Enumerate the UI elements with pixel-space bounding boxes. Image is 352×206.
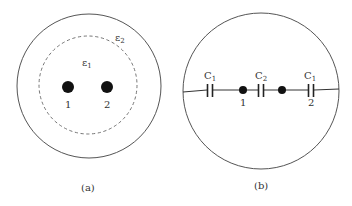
panel-b <box>183 13 339 169</box>
wire <box>314 89 339 90</box>
panel-a <box>17 14 161 158</box>
capacitor-c1-right <box>309 84 314 97</box>
capacitor-symbol: C <box>204 70 212 81</box>
caption-b: (b) <box>254 181 268 191</box>
outer-boundary-circle-b <box>183 13 339 169</box>
caption-a: (a) <box>81 183 95 193</box>
dashed-dielectric-boundary <box>39 36 137 134</box>
capacitor-subscript: 1 <box>212 75 216 83</box>
diagram-canvas <box>0 0 352 206</box>
epsilon-2-label: ε2 <box>115 33 125 46</box>
capacitor-c2-label: C2 <box>255 71 267 84</box>
conductor-1-label: 1 <box>65 100 71 110</box>
conductor-2-dot <box>101 81 113 93</box>
node-1-dot <box>239 86 247 94</box>
capacitor-c1-left <box>208 84 213 97</box>
node-2-label: 2 <box>308 98 314 108</box>
wire <box>183 90 207 92</box>
capacitor-c1-left-label: C1 <box>204 71 216 84</box>
node-2-dot <box>278 86 286 94</box>
capacitor-symbol: C <box>304 70 312 81</box>
node-1-label: 1 <box>240 98 246 108</box>
capacitor-subscript: 2 <box>263 75 267 83</box>
epsilon-1-label: ε1 <box>82 58 92 71</box>
capacitor-subscript: 1 <box>312 75 316 83</box>
conductor-1-dot <box>62 81 74 93</box>
conductor-2-label: 2 <box>104 100 110 110</box>
capacitor-symbol: C <box>255 70 263 81</box>
epsilon-1-subscript: 1 <box>87 62 91 70</box>
capacitor-c2 <box>259 84 264 97</box>
capacitor-c1-right-label: C1 <box>304 71 316 84</box>
epsilon-2-subscript: 2 <box>120 37 124 45</box>
figure: ε2 ε1 1 2 (a) C1 C2 C1 1 2 (b) <box>0 0 352 206</box>
